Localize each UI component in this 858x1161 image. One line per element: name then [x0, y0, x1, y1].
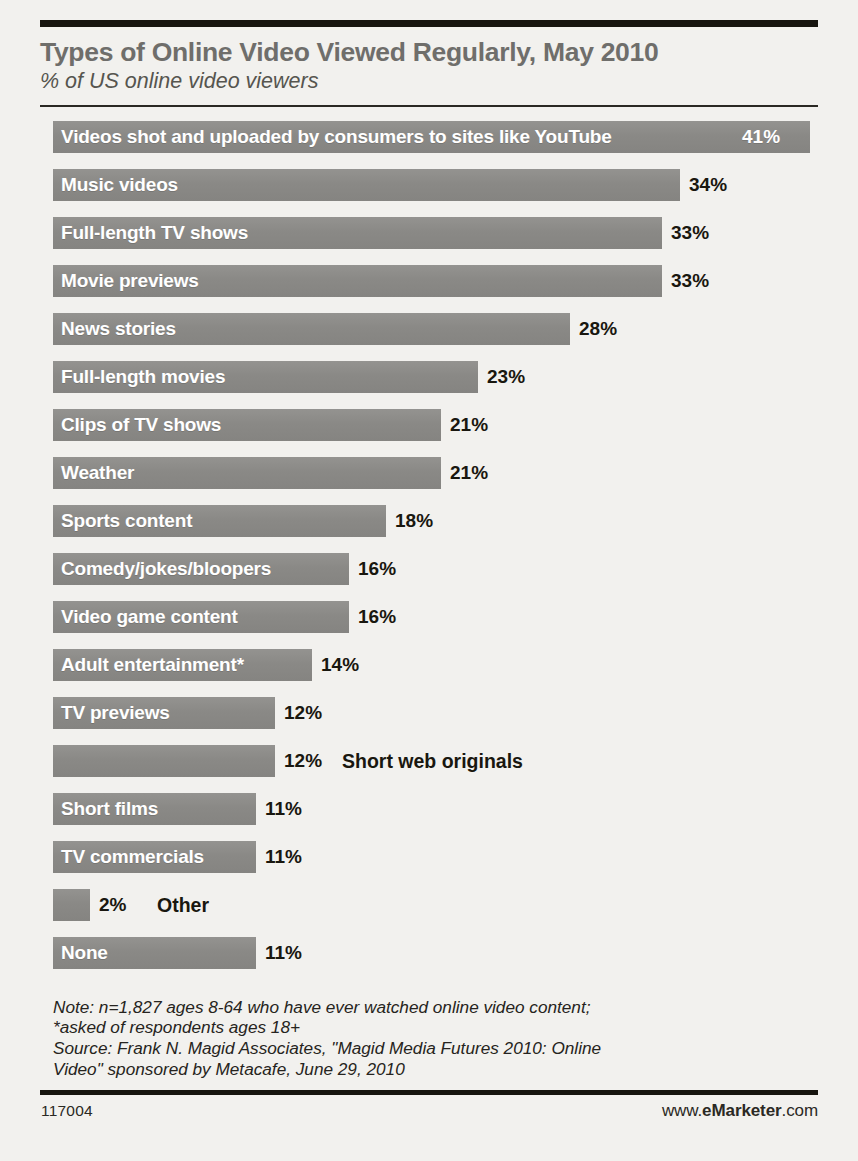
bar-category-label: Sports content	[53, 505, 192, 537]
document-id: 117004	[41, 1102, 93, 1120]
page-subtitle: % of US online video viewers	[40, 70, 818, 94]
bar-row: TV commercials11%	[40, 841, 818, 889]
bar-row: Comedy/jokes/bloopers16%	[40, 553, 818, 601]
bar-value-label: 21%	[450, 409, 488, 441]
bar-category-label: Videos shot and uploaded by consumers to…	[53, 121, 612, 153]
brand-name: eMarketer	[702, 1101, 781, 1120]
header-rule-divider	[40, 105, 818, 107]
bar-category-label: Clips of TV shows	[53, 409, 221, 441]
footer-bar: 117004 www.eMarketer.com	[40, 1101, 818, 1121]
note-line-2: *asked of respondents ages 18+	[53, 1017, 818, 1038]
bar-value-label: 33%	[671, 217, 709, 249]
bar-value-label: 2%	[99, 889, 126, 921]
page-title: Types of Online Video Viewed Regularly, …	[40, 38, 818, 66]
bar-category-label: Movie previews	[53, 265, 199, 297]
bar-row: Short films11%	[40, 793, 818, 841]
chart-page: Types of Online Video Viewed Regularly, …	[0, 0, 858, 1161]
bar-value-label: 11%	[265, 793, 302, 825]
bar-category-label: TV previews	[53, 697, 170, 729]
bar-value-label: 21%	[450, 457, 488, 489]
bar-row: 12%Short web originals	[40, 745, 818, 793]
bar-row: Clips of TV shows21%	[40, 409, 818, 457]
bar-category-label: Short films	[53, 793, 158, 825]
bar-value-label: 28%	[579, 313, 617, 345]
bar-value-label: 12%	[284, 697, 322, 729]
bar-row: Sports content18%	[40, 505, 818, 553]
bar-category-label: Adult entertainment*	[53, 649, 244, 681]
bar-value-label: 16%	[358, 601, 396, 633]
bar-value-label: 14%	[321, 649, 359, 681]
brand-prefix: www.	[662, 1101, 702, 1120]
bar-category-label: None	[53, 937, 108, 969]
bar-category-label: News stories	[53, 313, 176, 345]
bar-value-label: 11%	[265, 841, 302, 873]
source-line-2: Video" sponsored by Metacafe, June 29, 2…	[53, 1059, 818, 1080]
emarketer-brand: www.eMarketer.com	[662, 1101, 818, 1121]
bar-row: News stories28%	[40, 313, 818, 361]
bar-row: Movie previews33%	[40, 265, 818, 313]
bar-value-label: 34%	[689, 169, 727, 201]
top-rule-divider	[40, 20, 818, 27]
horizontal-bar-chart: Videos shot and uploaded by consumers to…	[40, 121, 818, 985]
bottom-rule-divider	[40, 1090, 818, 1095]
bar-row: Full-length movies23%	[40, 361, 818, 409]
bar-row: None11%	[40, 937, 818, 985]
bar-category-label: Other	[157, 889, 209, 921]
bar-category-label: Short web originals	[342, 745, 523, 777]
bar-category-label: Video game content	[53, 601, 238, 633]
bar-value-label: 16%	[358, 553, 396, 585]
bar-value-label: 12%	[284, 745, 322, 777]
bar-category-label: Full-length TV shows	[53, 217, 248, 249]
bar-category-label: TV commercials	[53, 841, 204, 873]
bar-row: Video game content16%	[40, 601, 818, 649]
bar-row: 2%Other	[40, 889, 818, 937]
bar-row: Weather21%	[40, 457, 818, 505]
note-line-1: Note: n=1,827 ages 8-64 who have ever wa…	[53, 997, 818, 1018]
bar-value-label: 33%	[671, 265, 709, 297]
bar-row: Full-length TV shows33%	[40, 217, 818, 265]
bar-value-label: 23%	[487, 361, 525, 393]
bar-category-label: Music videos	[53, 169, 178, 201]
chart-notes: Note: n=1,827 ages 8-64 who have ever wa…	[40, 997, 818, 1080]
brand-suffix: .com	[782, 1101, 818, 1120]
bar-row: TV previews12%	[40, 697, 818, 745]
bar-category-label: Full-length movies	[53, 361, 225, 393]
bar-category-label: Comedy/jokes/bloopers	[53, 553, 271, 585]
bar-category-label: Weather	[53, 457, 134, 489]
source-line-1: Source: Frank N. Magid Associates, "Magi…	[53, 1038, 818, 1059]
bar-row: Music videos34%	[40, 169, 818, 217]
bar-row: Videos shot and uploaded by consumers to…	[40, 121, 818, 169]
bar	[53, 745, 275, 777]
bar-value-label: 18%	[395, 505, 433, 537]
bar-value-label: 11%	[265, 937, 302, 969]
bar	[53, 889, 90, 921]
bar-value-label: 41%	[742, 121, 780, 153]
chart-sheet: Types of Online Video Viewed Regularly, …	[40, 20, 818, 1121]
bar-row: Adult entertainment*14%	[40, 649, 818, 697]
